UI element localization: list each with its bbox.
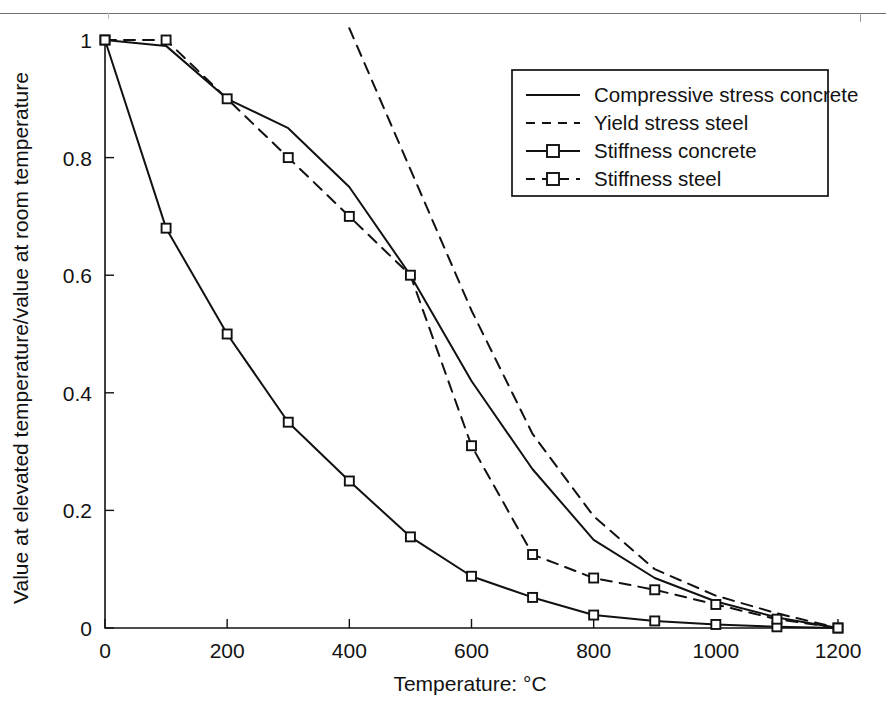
legend-item-label: Yield stress steel xyxy=(594,111,748,134)
data-point-marker xyxy=(711,620,720,629)
x-tick-label: 400 xyxy=(332,639,367,662)
y-tick-label: 0.2 xyxy=(63,499,92,522)
line-chart: 02004006008001000120000.20.40.60.81 Temp… xyxy=(0,18,886,718)
data-point-marker xyxy=(467,441,476,450)
data-point-marker xyxy=(528,550,537,559)
data-point-marker xyxy=(406,532,415,541)
x-tick-label: 600 xyxy=(454,639,489,662)
data-point-marker xyxy=(772,615,781,624)
legend-item-label: Stiffness steel xyxy=(594,167,721,190)
y-tick-label: 1 xyxy=(80,29,92,52)
y-tick-label: 0.6 xyxy=(63,264,92,287)
data-point-marker xyxy=(223,94,232,103)
legend-item-label: Stiffness concrete xyxy=(594,139,757,162)
chart-legend: Compressive stress concreteYield stress … xyxy=(512,70,858,196)
y-tick-label: 0.4 xyxy=(63,382,93,405)
data-point-marker xyxy=(467,572,476,581)
legend-item-label: Compressive stress concrete xyxy=(594,83,858,106)
data-point-marker xyxy=(284,153,293,162)
data-point-marker xyxy=(162,224,171,233)
x-tick-label: 800 xyxy=(576,639,611,662)
x-tick-label: 200 xyxy=(210,639,245,662)
x-tick-label: 1200 xyxy=(815,639,862,662)
data-point-marker xyxy=(101,36,110,45)
legend-marker-icon xyxy=(547,173,559,185)
data-point-marker xyxy=(650,616,659,625)
data-point-marker xyxy=(345,477,354,486)
data-point-marker xyxy=(711,600,720,609)
data-point-marker xyxy=(345,212,354,221)
page-top-rule xyxy=(0,13,886,14)
y-axis-title: Value at elevated temperature/value at r… xyxy=(9,72,32,604)
x-tick-label: 1000 xyxy=(692,639,739,662)
data-point-marker xyxy=(589,574,598,583)
data-point-marker xyxy=(162,36,171,45)
data-point-marker xyxy=(528,593,537,602)
data-point-marker xyxy=(834,624,843,633)
y-tick-label: 0.8 xyxy=(63,147,92,170)
data-point-marker xyxy=(650,585,659,594)
y-tick-label: 0 xyxy=(80,617,92,640)
figure-page: 02004006008001000120000.20.40.60.81 Temp… xyxy=(0,0,886,720)
x-tick-label: 0 xyxy=(99,639,111,662)
data-point-marker xyxy=(284,418,293,427)
legend-marker-icon xyxy=(547,145,559,157)
chart-figure: 02004006008001000120000.20.40.60.81 Temp… xyxy=(0,18,886,718)
data-point-marker xyxy=(589,611,598,620)
data-point-marker xyxy=(406,271,415,280)
x-axis-title: Temperature: °C xyxy=(393,672,546,695)
data-point-marker xyxy=(223,330,232,339)
